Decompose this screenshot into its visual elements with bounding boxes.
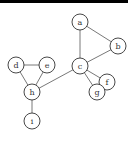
node-label: a (78, 18, 83, 27)
nodes: abcdefghi (8, 14, 126, 129)
node-label: e (45, 61, 50, 70)
node-label: b (115, 42, 120, 51)
node-e: e (39, 57, 55, 73)
edges (16, 22, 118, 121)
node-label: c (78, 62, 83, 71)
node-b: b (110, 38, 126, 54)
node-g: g (89, 84, 105, 100)
node-label: h (29, 88, 34, 97)
node-a: a (72, 14, 88, 30)
node-i: i (24, 113, 40, 129)
graph-diagram: abcdefghi (0, 0, 134, 146)
node-label: g (94, 88, 99, 97)
node-d: d (8, 57, 24, 73)
node-label: i (31, 117, 34, 126)
node-label: d (13, 61, 18, 70)
node-h: h (24, 84, 40, 100)
node-c: c (72, 58, 88, 74)
